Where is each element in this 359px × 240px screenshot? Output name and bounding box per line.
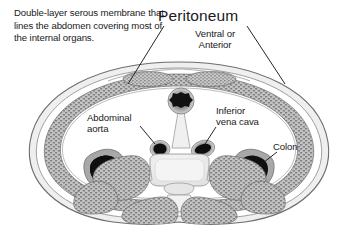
peritoneum-figure: Double-layer serous membrane that lines … — [0, 0, 359, 240]
label-abdominal-aorta: Abdominal aorta — [87, 112, 167, 135]
label-ventral-anterior: Ventral or Anterior — [178, 28, 252, 51]
vertebral-body — [150, 154, 209, 186]
label-colon: Colon — [273, 141, 298, 152]
figure-title: Peritoneum — [158, 7, 238, 25]
spinal-canal — [164, 183, 194, 195]
peritoneum-description: Double-layer serous membrane that lines … — [14, 7, 164, 45]
label-inferior-vena-cava: Inferior vena cava — [216, 105, 296, 128]
